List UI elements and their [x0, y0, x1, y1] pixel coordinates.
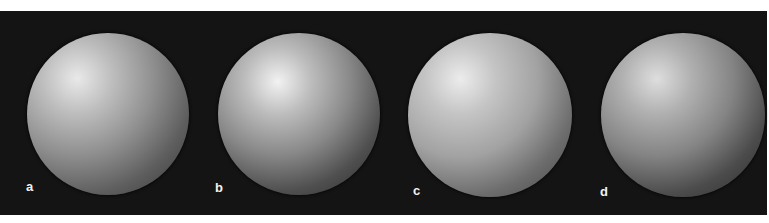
- panel-label-b: b: [215, 181, 223, 194]
- figure-panel-strip: a b c d: [0, 11, 767, 215]
- sphere-b: [218, 33, 380, 195]
- sphere-c: [408, 33, 572, 197]
- panel-label-a: a: [26, 180, 33, 193]
- panel-label-d: d: [600, 185, 608, 198]
- sphere-a: [27, 33, 189, 195]
- panel-label-c: c: [413, 184, 420, 197]
- sphere-d: [601, 33, 765, 197]
